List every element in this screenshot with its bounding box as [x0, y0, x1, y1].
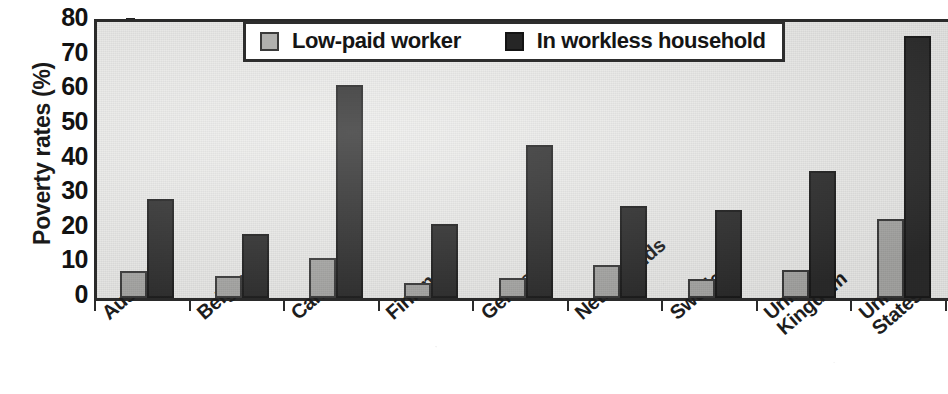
legend-swatch-icon-low-paid — [260, 32, 279, 51]
bar-low-paid-sweden — [688, 279, 715, 298]
y-axis-tick-label: 70 — [36, 40, 88, 65]
legend-item-low-paid-worker: Low-paid worker — [260, 28, 461, 54]
y-axis-tick-label: 60 — [36, 74, 88, 99]
y-axis-tick-label: 50 — [36, 109, 88, 134]
chart-legend: Low-paid worker In workless household — [243, 21, 785, 62]
bar-series-container — [97, 22, 948, 298]
bar-workless-sweden — [715, 210, 742, 298]
y-axis-tick-label: 80 — [36, 5, 88, 30]
legend-item-workless-household: In workless household — [505, 28, 766, 54]
bar-workless-germany — [526, 145, 553, 298]
bar-workless-netherlands — [620, 206, 647, 298]
bar-workless-belgium — [242, 234, 269, 298]
bar-low-paid-finland — [404, 283, 431, 298]
bar-low-paid-united-kingdom — [782, 270, 809, 298]
y-axis-tick-label: 30 — [36, 178, 88, 203]
bar-low-paid-united-states — [877, 219, 904, 298]
bar-low-paid-australia — [120, 271, 147, 298]
legend-label-workless: In workless household — [537, 28, 766, 54]
bar-workless-united-kingdom — [809, 171, 836, 298]
bar-chart-figure: Poverty rates (%) 01020304050607080 Aust… — [0, 0, 948, 394]
legend-label-low-paid: Low-paid worker — [292, 28, 461, 54]
bar-low-paid-netherlands — [593, 265, 620, 298]
bar-workless-finland — [431, 224, 458, 298]
y-axis-tick-label: 40 — [36, 144, 88, 169]
bar-low-paid-belgium — [215, 276, 242, 298]
bar-low-paid-germany — [499, 278, 526, 298]
bar-low-paid-canada — [309, 258, 336, 298]
bar-workless-australia — [147, 199, 174, 298]
legend-swatch-icon-workless — [505, 32, 524, 51]
y-axis-tick-label: 10 — [36, 247, 88, 272]
y-axis-tick-label: 20 — [36, 213, 88, 238]
x-axis-category-labels: AustraliaBelgiumCanadaFinlandGermanyNeth… — [0, 300, 948, 394]
bar-workless-united-states — [904, 36, 931, 298]
bar-workless-canada — [336, 85, 363, 298]
